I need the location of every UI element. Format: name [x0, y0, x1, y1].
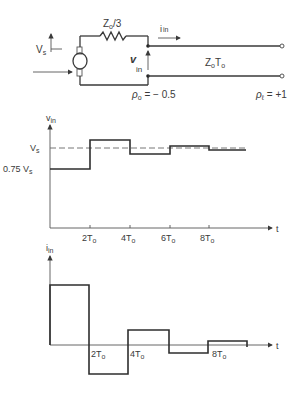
- iin-axis-label: iin: [46, 243, 54, 254]
- iin-plot: iin t 2To 4To 8To: [46, 243, 279, 374]
- tick-2t0: 2To: [91, 349, 106, 360]
- tick-vs: Vs: [30, 143, 40, 154]
- load-reflection-label: ρℓ = +1: [255, 89, 287, 101]
- voltage-sub: in: [136, 65, 142, 74]
- iin-x-label: t: [276, 341, 279, 351]
- step-source-symbol: Vs: [33, 34, 72, 72]
- resistor-label: Zo/3: [103, 18, 122, 30]
- tick-8t0: 8To: [200, 233, 215, 244]
- figure: Vs Zo/3 v in iin Z: [0, 0, 300, 397]
- tick-6t0: 6To: [161, 233, 176, 244]
- source-reflection-label: ρo = − 0.5: [131, 89, 176, 101]
- resistor-icon: [100, 32, 126, 40]
- tick-075vs: 0.75 Vs: [3, 164, 33, 175]
- vin-axis-label: vin: [46, 113, 56, 124]
- open-end-bottom: [280, 74, 284, 78]
- tick-2t0: 2To: [82, 233, 97, 244]
- tick-4t0: 4To: [130, 349, 145, 360]
- source-label: Vs: [36, 44, 47, 56]
- vin-waveform: [50, 140, 246, 169]
- current-label: iin: [160, 24, 169, 34]
- tick-8t0: 8To: [212, 349, 227, 360]
- open-end-top: [280, 44, 284, 48]
- iin-waveform: [50, 285, 247, 374]
- tick-4t0: 4To: [121, 233, 136, 244]
- line-label: ZoTo: [205, 57, 225, 69]
- vin-plot: vin t Vs 0.75 Vs 2To 4To 6To 8To: [3, 113, 279, 244]
- voltage-label: v: [130, 53, 137, 65]
- vin-x-label: t: [276, 224, 279, 234]
- circuit-diagram: Vs Zo/3 v in iin Z: [33, 18, 287, 101]
- generator-icon: [73, 36, 87, 85]
